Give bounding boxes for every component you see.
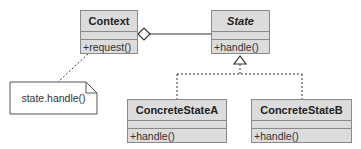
class-attributes [212,32,269,40]
class-attributes [128,121,226,129]
realization-triangle-icon [234,56,246,64]
class-operation: +handle() [252,129,351,144]
class-name: Context [81,11,137,32]
class-operation: +request() [81,40,137,55]
aggregation-diamond-icon [138,28,150,40]
class-concrete-state-b[interactable]: ConcreteStateB +handle() [251,99,352,143]
class-context[interactable]: Context +request() [80,10,138,54]
class-name: ConcreteStateB [252,100,351,121]
class-state[interactable]: State +handle() [211,10,270,54]
class-operation: +handle() [212,40,269,55]
note-link-line [58,54,88,82]
note-text: state.handle() [10,92,97,104]
class-attributes [252,121,351,129]
class-attributes [81,32,137,40]
class-name: ConcreteStateA [128,100,226,121]
class-name: State [212,11,269,32]
class-concrete-state-a[interactable]: ConcreteStateA +handle() [127,99,227,143]
class-operation: +handle() [128,129,226,144]
